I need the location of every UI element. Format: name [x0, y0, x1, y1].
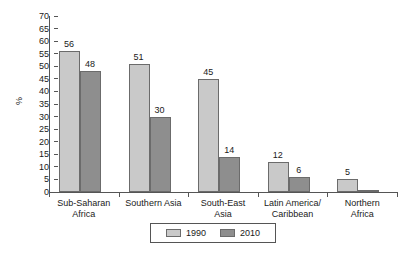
x-axis-tick-mark: [49, 192, 50, 197]
y-axis-tick-label: 45: [39, 74, 49, 84]
legend-label-1990: 1990: [186, 228, 206, 238]
bar-2010-1[interactable]: [80, 71, 101, 192]
legend-item-2010[interactable]: 2010: [220, 228, 260, 238]
chart-legend: 1990 2010: [150, 223, 276, 243]
bar-1990-5[interactable]: [337, 179, 358, 192]
x-axis-line: [49, 192, 397, 193]
x-axis-tick-mark: [327, 192, 328, 197]
plot-area: 5648513045141265: [49, 16, 397, 192]
y-axis-tick-label: 15: [39, 149, 49, 159]
x-axis-tick-mark: [258, 192, 259, 197]
y-axis-tick-label: 10: [39, 162, 49, 172]
bar-value-label: 56: [54, 39, 84, 49]
x-axis-tick-mark: [119, 192, 120, 197]
bar-value-label: 5: [332, 167, 362, 177]
y-axis-tick-label: 20: [39, 137, 49, 147]
y-axis-tick-label: 25: [39, 124, 49, 134]
bar-2010-4[interactable]: [289, 177, 310, 192]
y-axis-tick-label: 35: [39, 99, 49, 109]
legend-swatch-2010-icon: [220, 229, 235, 237]
bar-value-label: 14: [214, 145, 244, 155]
bar-value-label: 45: [193, 67, 223, 77]
bar-2010-3[interactable]: [219, 157, 240, 192]
bar-2010-5[interactable]: [358, 190, 379, 193]
legend-swatch-1990-icon: [166, 229, 181, 237]
bar-value-label: 6: [284, 165, 314, 175]
bar-group: 5130: [119, 16, 189, 192]
bar-group: 5: [327, 16, 397, 192]
x-axis-tick-mark: [397, 192, 398, 197]
bar-chart: % 7065605550454035302520151050 564851304…: [0, 0, 403, 257]
legend-label-2010: 2010: [240, 228, 260, 238]
category-label-5: NorthernAfrica: [316, 198, 403, 220]
bar-group: 126: [258, 16, 328, 192]
y-axis-tick-label: 40: [39, 86, 49, 96]
y-axis-tick-label: 65: [39, 24, 49, 34]
bar-value-label: 48: [75, 59, 105, 69]
category-label-line: Africa: [316, 209, 403, 220]
bar-1990-3[interactable]: [198, 79, 219, 192]
y-axis-tick-label: 30: [39, 112, 49, 122]
bar-group: 5648: [49, 16, 119, 192]
bar-2010-2[interactable]: [150, 117, 171, 192]
bar-group: 4514: [188, 16, 258, 192]
bar-value-label: 51: [124, 52, 154, 62]
y-axis-title: %: [14, 91, 24, 111]
y-axis-tick-label: 70: [39, 11, 49, 21]
x-axis-tick-mark: [188, 192, 189, 197]
category-label-line: Africa: [38, 209, 130, 220]
legend-item-1990[interactable]: 1990: [166, 228, 206, 238]
bar-value-label: 30: [145, 105, 175, 115]
bar-1990-2[interactable]: [129, 64, 150, 192]
bar-1990-1[interactable]: [59, 51, 80, 192]
bar-value-label: 12: [263, 150, 293, 160]
y-axis-tick-label: 55: [39, 49, 49, 59]
y-axis-tick-label: 60: [39, 36, 49, 46]
category-label-line: Northern: [316, 198, 403, 209]
y-axis-tick-label: 50: [39, 61, 49, 71]
